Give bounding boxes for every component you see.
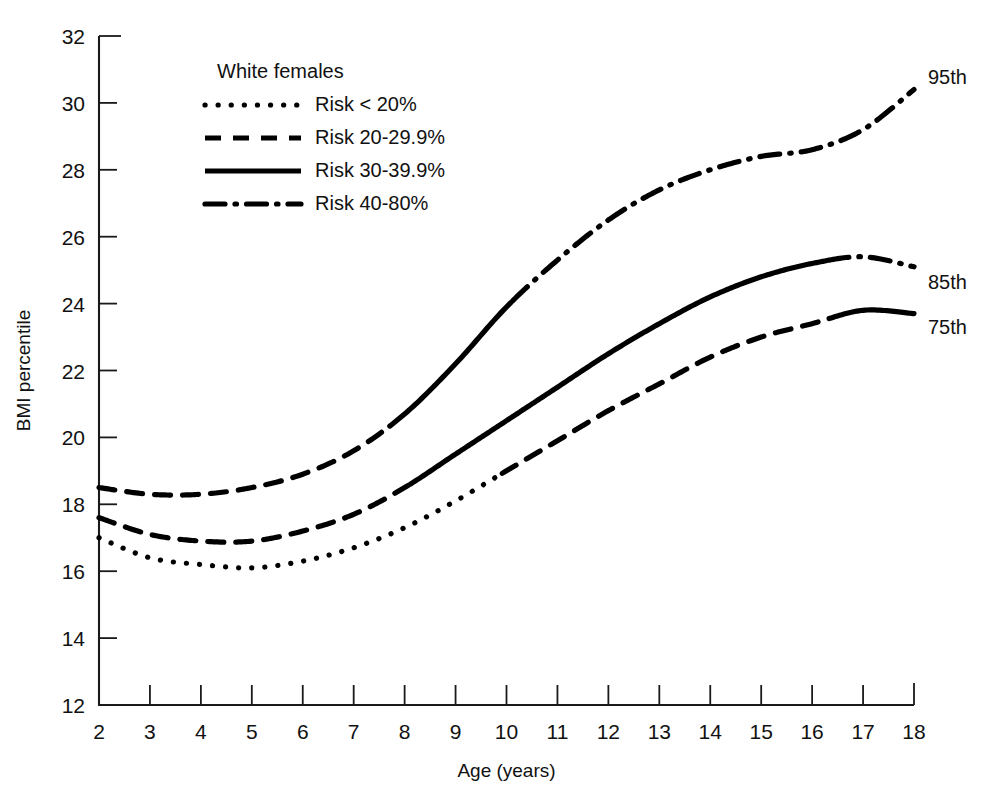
x-tick-label: 2 [93,720,105,743]
y-tick-label: 28 [62,159,85,182]
y-tick-label: 14 [62,627,86,650]
end-label-95th: 95th [928,66,967,88]
x-tick-label: 8 [399,720,411,743]
x-tick-label: 13 [648,720,671,743]
x-tick-label: 7 [348,720,360,743]
x-tick-label: 14 [699,720,723,743]
legend-label-1: Risk 20-29.9% [315,126,445,148]
y-tick-label: 18 [62,493,85,516]
y-tick-label: 30 [62,92,85,115]
end-label-75th: 75th [928,316,967,338]
x-tick-label: 6 [297,720,309,743]
x-tick-label: 17 [851,720,874,743]
x-tick-label: 9 [450,720,462,743]
bmi-percentile-line-chart: 1214161820222426283032234567891011121314… [0,0,981,808]
y-tick-label: 20 [62,426,85,449]
y-axis-title: BMI percentile [13,310,34,431]
x-tick-label: 11 [547,720,569,743]
x-tick-label: 10 [495,720,518,743]
chart-figure: 1214161820222426283032234567891011121314… [0,0,981,808]
y-tick-label: 12 [62,694,85,717]
legend-title: White females [217,60,344,82]
legend-label-2: Risk 30-39.9% [315,159,445,181]
x-tick-label: 15 [750,720,773,743]
x-tick-label: 18 [902,720,925,743]
y-tick-label: 22 [62,360,85,383]
y-tick-label: 16 [62,560,85,583]
x-tick-label: 12 [597,720,620,743]
legend-label-0: Risk < 20% [315,93,417,115]
x-axis-title: Age (years) [457,760,555,781]
y-tick-label: 26 [62,226,85,249]
x-tick-label: 3 [144,720,156,743]
y-tick-label: 32 [62,25,85,48]
end-label-85th: 85th [928,271,967,293]
legend-label-3: Risk 40-80% [315,192,429,214]
x-tick-label: 16 [800,720,823,743]
x-tick-label: 5 [246,720,258,743]
chart-background [0,0,981,808]
x-tick-label: 4 [195,720,207,743]
y-tick-label: 24 [62,293,86,316]
